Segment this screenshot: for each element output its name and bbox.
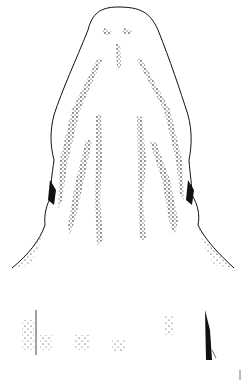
head-outline [12, 7, 234, 268]
illustration [0, 0, 243, 385]
